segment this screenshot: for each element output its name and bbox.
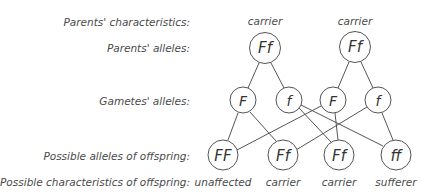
offspring1-node: FF [208,140,239,171]
label-gametes-alleles: Gametes' alleles: [99,95,190,107]
link-parent1-gamete1 [248,63,259,88]
link-parent2-gamete3 [338,62,349,88]
parent1-alleles-node: Ff [249,32,281,64]
link-parent2-gamete4 [361,62,373,88]
gamete3-node: F [320,87,347,114]
offspring3-characteristic: carrier [322,176,357,188]
link-g2-o3 [299,108,331,142]
label-parents-alleles: Parents' alleles: [107,42,190,54]
label-offspring-characteristics: Possible characteristics of offspring: [0,176,190,188]
parent2-alleles-node: Ff [339,31,371,63]
gamete2-node: f [276,87,303,114]
gamete4-node: f [365,87,392,114]
connector-lines [0,0,421,195]
offspring3-node: Ff [324,140,355,171]
parent2-characteristic: carrier [338,15,373,27]
label-offspring-alleles: Possible alleles of offspring: [43,150,190,162]
offspring1-characteristic: unaffected [195,176,252,188]
offspring2-characteristic: carrier [266,176,301,188]
parent1-characteristic: carrier [248,15,283,27]
punnett-inheritance-diagram: Parents' characteristics: Parents' allel… [0,0,421,195]
label-parents-characteristics: Parents' characteristics: [64,16,191,28]
offspring4-characteristic: sufferer [375,176,416,188]
offspring4-node: ff [381,140,412,171]
link-g1-o1 [228,113,238,140]
offspring2-node: Ff [268,140,299,171]
link-parent1-gamete2 [271,63,284,88]
gamete1-node: F [230,87,257,114]
link-g4-o4 [382,113,393,140]
